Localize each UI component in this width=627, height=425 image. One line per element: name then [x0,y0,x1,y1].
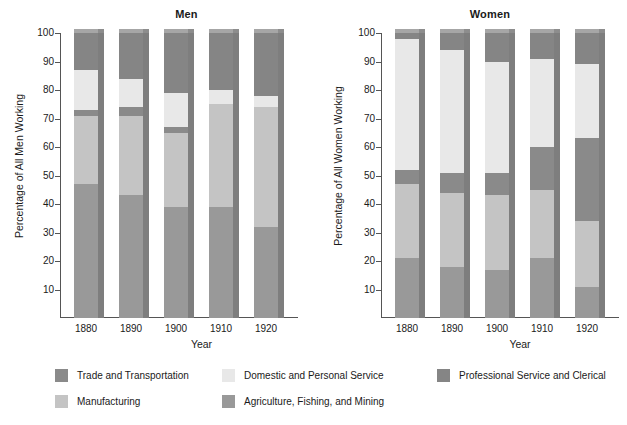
bar-segment[interactable] [485,62,509,173]
x-axis-tick-label: 1880 [61,323,111,334]
bar-segment[interactable] [530,258,554,318]
stacked-bar[interactable] [119,33,143,318]
stacked-bar[interactable] [395,33,419,318]
bar-segment[interactable] [395,39,419,170]
bar-segment[interactable] [395,258,419,318]
stacked-bar[interactable] [530,33,554,318]
bar-group[interactable]: 1910 [530,33,560,318]
x-axis-tick-label: 1920 [241,323,291,334]
bar-segment[interactable] [164,33,188,93]
legend-label: Professional Service and Clerical [459,368,606,383]
bar-segment[interactable] [209,207,233,318]
bar-segment[interactable] [530,147,554,190]
bar-side-face [233,33,239,318]
bar-segment[interactable] [575,33,599,64]
y-axis-tick [55,119,60,120]
bar-segment[interactable] [440,173,464,193]
bar-segment[interactable] [254,107,278,227]
chart-legend: Trade and TransportationDomestic and Per… [0,364,627,425]
bar-segment[interactable] [74,110,98,116]
y-axis-tick-label: 50 [345,171,375,181]
bar-segment[interactable] [440,193,464,267]
bar-segment[interactable] [575,221,599,287]
y-axis-tick [376,204,381,205]
y-axis-tick-label: 10 [345,285,375,295]
y-axis-tick-label: 20 [24,256,54,266]
bar-top-bevel [554,29,560,33]
bar-group[interactable]: 1920 [254,33,284,318]
x-axis-tick-label: 1890 [106,323,156,334]
bar-top-bevel [509,29,515,33]
bar-segment[interactable] [575,138,599,221]
y-axis-tick [376,62,381,63]
bar-group[interactable]: 1920 [575,33,605,318]
y-axis-tick [376,147,381,148]
bar-top-face [164,29,188,33]
bar-group[interactable]: 1890 [119,33,149,318]
stacked-bar[interactable] [74,33,98,318]
bar-segment[interactable] [119,107,143,116]
y-axis-tick-label: 60 [345,142,375,152]
bar-segment[interactable] [74,70,98,110]
bar-group[interactable]: 1900 [164,33,194,318]
bar-group[interactable]: 1880 [395,33,425,318]
legend-swatch [55,369,68,382]
panel-men-plot-area: 18801890190019101920 1020304050607080901… [60,33,290,318]
bar-side-face [554,33,560,318]
bar-group[interactable]: 1910 [209,33,239,318]
panel-women-title: Women [313,8,627,20]
bar-group[interactable]: 1890 [440,33,470,318]
x-axis-tick-label: 1910 [196,323,246,334]
bar-segment[interactable] [164,207,188,318]
bar-segment[interactable] [119,79,143,108]
bar-segment[interactable] [119,195,143,318]
y-axis-tick-label: 80 [345,85,375,95]
bar-segment[interactable] [485,270,509,318]
bar-segment[interactable] [209,33,233,90]
bar-segment[interactable] [485,195,509,269]
bar-group[interactable]: 1900 [485,33,515,318]
bar-side-face [143,33,149,318]
bar-segment[interactable] [440,33,464,50]
bar-segment[interactable] [530,33,554,59]
bar-segment[interactable] [119,33,143,79]
y-axis-tick [376,90,381,91]
bar-segment[interactable] [254,96,278,107]
bar-segment[interactable] [485,33,509,62]
bar-segment[interactable] [209,90,233,104]
bar-segment[interactable] [119,116,143,196]
y-axis-tick-label: 30 [345,228,375,238]
bar-segment[interactable] [575,64,599,138]
bar-segment[interactable] [440,50,464,173]
bar-segment[interactable] [74,184,98,318]
bar-segment[interactable] [440,267,464,318]
bar-top-bevel [419,29,425,33]
stacked-bar[interactable] [440,33,464,318]
bar-segment[interactable] [485,173,509,196]
y-axis-tick [376,233,381,234]
bar-top-bevel [464,29,470,33]
bar-segment[interactable] [74,33,98,70]
stacked-bar[interactable] [485,33,509,318]
bar-segment[interactable] [74,116,98,184]
stacked-bar[interactable] [209,33,233,318]
bar-segment[interactable] [395,33,419,39]
bar-segment[interactable] [395,184,419,258]
bar-top-face [575,29,599,33]
bar-segment[interactable] [254,33,278,96]
bar-segment[interactable] [254,227,278,318]
bar-segment[interactable] [164,127,188,133]
bar-segment[interactable] [530,190,554,258]
bar-segment[interactable] [575,287,599,318]
legend-swatch [222,395,235,408]
bar-segment[interactable] [395,170,419,184]
bar-segment[interactable] [209,104,233,207]
stacked-bar[interactable] [164,33,188,318]
y-axis-tick-label: 100 [24,28,54,38]
bar-segment[interactable] [164,133,188,207]
bar-segment[interactable] [164,93,188,127]
stacked-bar[interactable] [575,33,599,318]
stacked-bar[interactable] [254,33,278,318]
bar-group[interactable]: 1880 [74,33,104,318]
bar-segment[interactable] [530,59,554,147]
